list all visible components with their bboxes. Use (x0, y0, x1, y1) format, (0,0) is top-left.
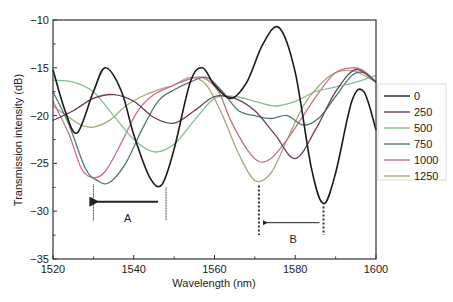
legend-label-250: 250 (414, 106, 432, 118)
transmission-spectrum-chart: AB 15201540156015801600 −35−30−25−20−15−… (0, 0, 453, 302)
shift-annotations: AB (93, 184, 323, 244)
y-tick-label: −35 (30, 253, 49, 265)
y-tick-label: −15 (30, 62, 49, 74)
legend-label-0: 0 (414, 90, 420, 102)
plot-frame (53, 20, 376, 259)
x-tick-label: 1600 (364, 263, 388, 275)
annotation-label-A: A (124, 212, 132, 224)
annotation-label-B: B (290, 233, 297, 245)
x-axis-label: Wavelength (nm) (172, 277, 255, 289)
x-tick-label: 1580 (283, 263, 307, 275)
y-tick-label: −25 (30, 157, 49, 169)
legend-label-500: 500 (414, 122, 432, 134)
legend-label-1250: 1250 (414, 170, 438, 182)
x-axis-ticks: 15201540156015801600 (41, 255, 388, 275)
legend-label-1000: 1000 (414, 154, 438, 166)
series-line-0 (53, 27, 376, 204)
y-tick-label: −30 (30, 205, 49, 217)
legend: 025050075010001250 (378, 84, 446, 182)
series-curves (53, 27, 376, 204)
legend-label-750: 750 (414, 138, 432, 150)
y-tick-label: −10 (30, 14, 49, 26)
y-tick-label: −20 (30, 110, 49, 122)
x-tick-label: 1540 (122, 263, 146, 275)
y-axis-label: Transmission intensity (dB) (12, 74, 24, 206)
x-tick-label: 1560 (202, 263, 226, 275)
